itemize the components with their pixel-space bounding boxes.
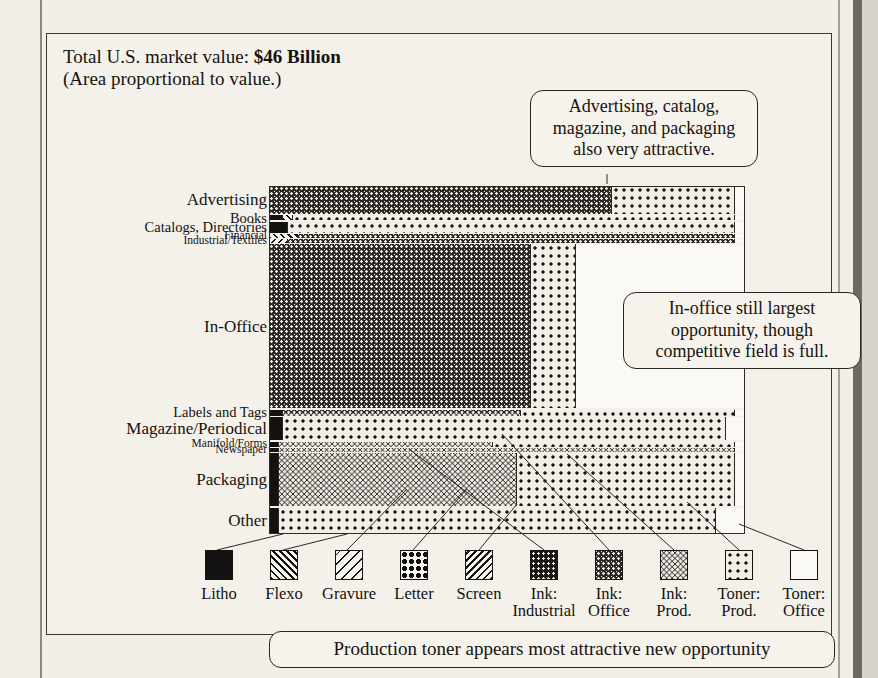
mosaic-row (269, 417, 745, 440)
mosaic-cell-ink-off (298, 234, 736, 238)
mosaic-cell-toner-prod (531, 244, 576, 408)
legend-label-litho: Litho (187, 585, 251, 602)
mosaic-cell-toner-prod (612, 186, 736, 214)
mosaic-cell-ink-prod (283, 410, 521, 416)
legend-swatch-screen-icon (465, 550, 493, 580)
mosaic-row (269, 453, 745, 506)
mosaic-cell-toner-prod (288, 222, 735, 233)
mosaic-cell-toner-prod (517, 453, 736, 506)
scanned-page: Total U.S. market value: $46 Billion (Ar… (0, 0, 878, 678)
mosaic-cell-toner-off (716, 508, 745, 533)
mosaic-cell-litho (269, 508, 279, 533)
legend-item-gravure: Gravure (317, 550, 381, 602)
mosaic-cell-ink-off (269, 186, 612, 214)
mosaic-row (269, 410, 745, 416)
callout-advertising: Advertising, catalog, magazine, and pack… (530, 90, 758, 167)
mosaic-row (269, 239, 745, 243)
mosaic-cell-toner-off (735, 215, 745, 220)
legend-item-toner-off: Toner: Office (772, 550, 836, 620)
process-legend: LithoFlexoGravureLetterScreenInk: Indust… (187, 550, 847, 622)
legend-item-screen: Screen (447, 550, 511, 602)
chart-title-block: Total U.S. market value: $46 Billion (Ar… (63, 46, 341, 91)
mosaic-cell-toner-off (735, 234, 745, 238)
mosaic-row (269, 442, 745, 447)
legend-label-ink-ind: Ink: Industrial (512, 585, 576, 620)
segment-label-other: Other (228, 512, 267, 529)
segment-label-magazine-periodical: Magazine/Periodical (126, 420, 267, 437)
legend-item-ink-prod: Ink: Prod. (642, 550, 706, 620)
legend-label-flexo: Flexo (252, 585, 316, 602)
callout-conclusion: Production toner appears most attractive… (269, 631, 835, 668)
mosaic-row (269, 222, 745, 233)
chart-title-line-1: Total U.S. market value: $46 Billion (63, 46, 341, 68)
segment-label-packaging: Packaging (196, 471, 267, 488)
mosaic-cell-litho (269, 448, 279, 452)
mosaic-cell-litho (269, 417, 283, 440)
mosaic-cell-ink-prod (279, 453, 517, 506)
legend-label-ink-prod: Ink: Prod. (642, 585, 706, 620)
legend-swatch-ink-ind-icon (530, 550, 558, 580)
chart-title-value: $46 Billion (254, 46, 341, 67)
mosaic-cell-litho (269, 442, 279, 447)
chart-title-prefix: Total U.S. market value: (63, 46, 254, 67)
mosaic-cell-flexo (269, 234, 298, 238)
mosaic-cell-toner-off (735, 453, 745, 506)
mosaic-cell-toner-prod (521, 410, 735, 416)
legend-swatch-flexo-icon (270, 550, 298, 580)
mosaic-cell-ink-prod (279, 442, 493, 447)
legend-label-toner-off: Toner: Office (772, 585, 836, 620)
mosaic-cell-litho (269, 453, 279, 506)
page-left-edge (40, 0, 42, 678)
mosaic-row (269, 186, 745, 214)
mosaic-cell-toner-off (726, 417, 745, 440)
mosaic-cell-screen (269, 239, 288, 243)
segment-label-labels-and-tags: Labels and Tags (173, 405, 267, 420)
legend-swatch-letter-icon (400, 550, 428, 580)
segment-label-industrial-textiles: Industrial/Textiles (183, 235, 267, 247)
segment-label-advertising: Advertising (187, 191, 267, 208)
legend-swatch-ink-off-icon (595, 550, 623, 580)
mosaic-cell-toner-prod (493, 442, 736, 447)
mosaic-cell-toner-prod (293, 215, 736, 220)
legend-swatch-toner-prod-icon (725, 550, 753, 580)
legend-item-ink-ind: Ink: Industrial (512, 550, 576, 620)
mosaic-row (269, 215, 745, 220)
mosaic-cell-litho (269, 215, 283, 220)
legend-label-gravure: Gravure (317, 585, 381, 602)
legend-item-letter: Letter (382, 550, 446, 602)
chart-subtitle: (Area proportional to value.) (63, 68, 341, 90)
mosaic-row (269, 448, 745, 452)
mosaic-cell-toner-prod (279, 508, 717, 533)
legend-label-ink-off: Ink: Office (577, 585, 641, 620)
mosaic-cell-toner-off (735, 239, 745, 243)
mosaic-row (269, 234, 745, 238)
legend-label-screen: Screen (447, 585, 511, 602)
legend-swatch-ink-prod-icon (660, 550, 688, 580)
mosaic-cell-flexo (283, 215, 293, 220)
mosaic-cell-toner-off (735, 442, 745, 447)
mosaic-cell-toner-off (735, 186, 745, 214)
legend-item-toner-prod: Toner: Prod. (707, 550, 771, 620)
mosaic-cell-toner-off (735, 410, 745, 416)
legend-item-flexo: Flexo (252, 550, 316, 602)
mosaic-cell-litho (269, 222, 288, 233)
legend-label-letter: Letter (382, 585, 446, 602)
mosaic-cell-ink-off (269, 244, 531, 408)
mosaic-cell-litho (269, 410, 283, 416)
segment-label-newspaper: Newspaper (215, 444, 267, 456)
legend-swatch-litho-icon (205, 550, 233, 580)
legend-swatch-gravure-icon (335, 550, 363, 580)
callout-in-office: In-office still largest opportunity, tho… (623, 292, 861, 369)
legend-item-ink-off: Ink: Office (577, 550, 641, 620)
mosaic-cell-toner-off (735, 448, 745, 452)
segment-label-in-office: In-Office (204, 318, 267, 335)
chart-frame: Total U.S. market value: $46 Billion (Ar… (46, 33, 832, 635)
page-outer-margin (862, 0, 878, 678)
legend-item-litho: Litho (187, 550, 251, 602)
legend-swatch-toner-off-icon (790, 550, 818, 580)
legend-label-toner-prod: Toner: Prod. (707, 585, 771, 620)
mosaic-row (269, 508, 745, 533)
segment-label-axis: AdvertisingBooksCatalogs, DirectoriesFin… (87, 184, 267, 540)
mosaic-cell-toner-prod (283, 417, 726, 440)
mosaic-cell-ink-off (288, 239, 735, 243)
